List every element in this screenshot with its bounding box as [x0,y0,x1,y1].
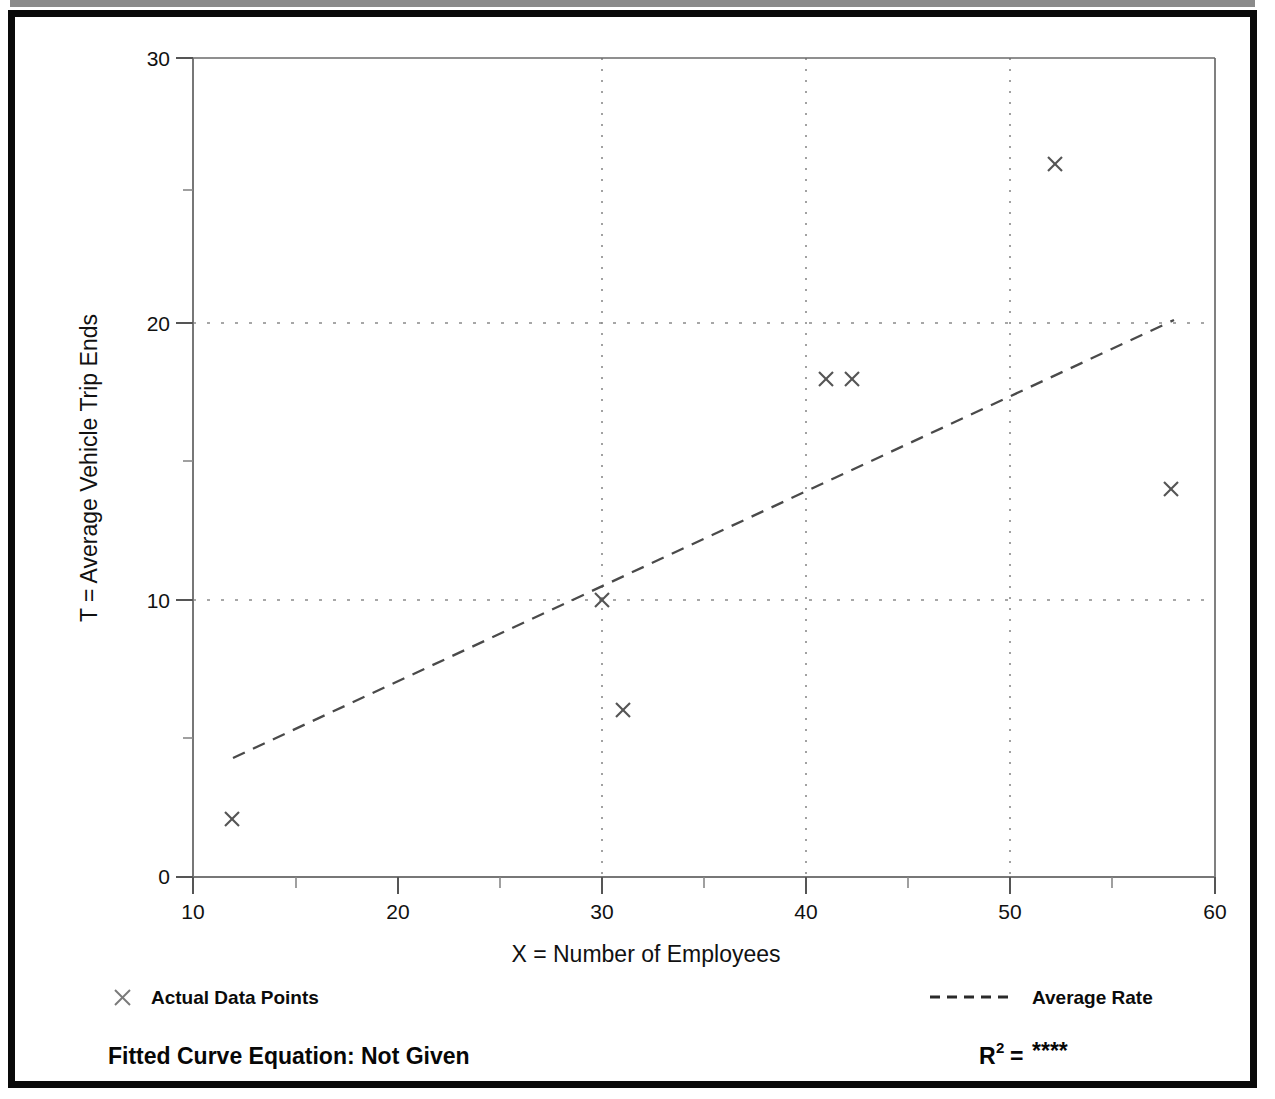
data-point-marker [595,593,609,607]
chart-page: 0 10 20 30 10 20 30 40 50 60 [0,0,1275,1099]
plot-frame [193,58,1215,877]
r-squared-value: **** [1032,1038,1068,1064]
x-tick-label-60: 60 [1203,900,1226,923]
data-point-marker [819,372,833,386]
y-tick-label-10: 10 [147,589,170,612]
legend-actual-data-points[interactable]: Actual Data Points [115,987,319,1008]
r-squared-equals: = [1010,1043,1023,1069]
data-point-marker [1048,157,1062,171]
x-axis-title: X = Number of Employees [511,941,780,967]
data-point-marker [1164,482,1178,496]
y-axis-title: T = Average Vehicle Trip Ends [76,314,102,622]
x-axis-ticks [193,877,1215,894]
y-tick-label-0: 0 [158,865,170,888]
r-squared-exponent: 2 [996,1039,1004,1056]
y-axis-ticks [176,58,193,877]
legend-average-rate-label: Average Rate [1032,987,1153,1008]
y-tick-labels: 0 10 20 30 [147,47,170,888]
scatter-chart: 0 10 20 30 10 20 30 40 50 60 [0,0,1275,1099]
x-tick-label-20: 20 [386,900,409,923]
legend-x-marker-icon [115,990,130,1005]
data-point-marker [845,372,859,386]
average-rate-trend-line [233,320,1174,758]
y-tick-label-20: 20 [147,312,170,335]
gridlines [193,58,1215,877]
x-tick-label-40: 40 [794,900,817,923]
data-point-marker [225,812,239,826]
fitted-curve-equation: Fitted Curve Equation: Not Given [108,1043,470,1069]
data-point-markers [225,157,1178,826]
r-squared-base: R [979,1043,996,1069]
legend-average-rate[interactable]: Average Rate [930,987,1153,1008]
legend-actual-data-points-label: Actual Data Points [151,987,319,1008]
x-tick-label-50: 50 [998,900,1021,923]
x-tick-label-10: 10 [181,900,204,923]
data-point-marker [616,703,630,717]
y-tick-label-30: 30 [147,47,170,70]
x-tick-labels: 10 20 30 40 50 60 [181,900,1226,923]
r-squared-annotation: R 2 = **** [979,1038,1068,1069]
x-tick-label-30: 30 [590,900,613,923]
